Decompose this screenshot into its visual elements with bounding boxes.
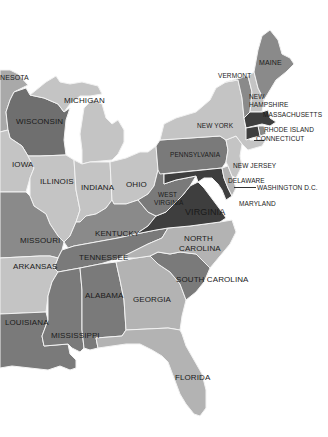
label-delaware: DELAWARE (228, 177, 265, 184)
label-alabama: ALABAMA (85, 291, 124, 300)
label-new-jersey: NEW JERSEY (233, 162, 276, 169)
label-florida: FLORIDA (175, 373, 210, 382)
label-louisiana: LOUISIANA (5, 318, 49, 327)
label-new-hampshire-line1: NEW (249, 93, 264, 100)
label-west-virginia-line1: WEST (158, 191, 177, 198)
label-connecticut: CONNECTICUT (256, 135, 304, 142)
label-washington-dc: WASHINGTON D.C. (257, 184, 318, 191)
label-kentucky: KENTUCKY (95, 229, 139, 238)
label-south-carolina: SOUTH CAROLINA (176, 275, 249, 284)
leader-line-dc (234, 187, 256, 188)
label-maine: MAINE (259, 59, 282, 66)
label-new-york: NEW YORK (197, 122, 233, 129)
label-maryland: MARYLAND (239, 200, 276, 207)
label-north-carolina-line2: CAROLINA (179, 244, 221, 253)
label-minnesota: NESOTA (0, 74, 29, 81)
label-virginia: VIRGINIA (185, 207, 225, 217)
label-tennessee: TENNESSEE (79, 253, 128, 262)
label-missouri: MISSOURI (20, 236, 60, 245)
label-illinois: ILLINOIS (40, 177, 74, 186)
label-vermont: VERMONT (218, 72, 251, 79)
label-pennsylvania: PENNSYLVANIA (170, 151, 220, 158)
label-mississippi: MISSISSIPPI (51, 331, 100, 340)
label-west-virginia-line2: VIRGINIA (154, 199, 183, 206)
state-michigan-lower[interactable] (80, 100, 124, 164)
label-ohio: OHIO (126, 180, 147, 189)
label-arkansas: ARKANSAS (13, 262, 57, 271)
state-florida[interactable] (96, 328, 206, 416)
label-massachusetts: MASSACHUSETTS (263, 111, 322, 118)
label-north-carolina-line1: NORTH (184, 234, 213, 243)
label-iowa: IOWA (12, 160, 33, 169)
label-michigan: MICHIGAN (64, 96, 105, 105)
label-georgia: GEORGIA (133, 295, 171, 304)
label-rhode-island: RHODE ISLAND (264, 126, 314, 133)
label-indiana: INDIANA (81, 183, 114, 192)
label-wisconsin: WISCONSIN (16, 117, 63, 126)
label-new-hampshire-line2: HAMPSHIRE (249, 101, 289, 108)
